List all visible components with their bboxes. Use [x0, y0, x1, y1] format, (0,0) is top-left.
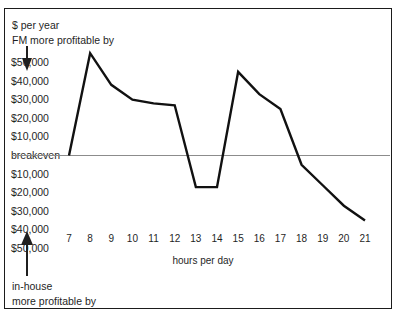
y-tick-label: $40,000: [11, 224, 49, 235]
top-annotation-line2: FM more profitable by: [12, 35, 114, 46]
y-tick-label: $50,000: [11, 57, 49, 68]
x-tick-label: 11: [148, 234, 158, 244]
y-tick-label: $30,000: [11, 94, 49, 105]
x-tick-label: 9: [109, 234, 115, 244]
chart-figure: $ per year FM more profitable by in-hous…: [0, 0, 406, 317]
y-tick-label: $30,000: [11, 206, 49, 217]
x-tick-label: 12: [169, 234, 180, 244]
y-tick-label: $10,000: [11, 131, 49, 142]
bottom-annotation: in-house more profitable by: [12, 281, 96, 310]
x-tick-label: 14: [211, 234, 222, 244]
x-tick-label: 21: [359, 234, 370, 244]
x-tick-label: 16: [254, 234, 265, 244]
y-tick-label: $20,000: [11, 187, 49, 198]
x-tick-label: 19: [317, 234, 328, 244]
top-annotation: $ per year FM more profitable by: [12, 20, 114, 49]
y-tick-label: $40,000: [11, 76, 49, 87]
x-tick-label: 8: [87, 234, 93, 244]
y-tick-label: $50,000: [11, 243, 49, 254]
x-tick-label: 13: [190, 234, 201, 244]
bottom-annotation-line1: in-house: [12, 281, 96, 292]
x-tick-label: 17: [275, 234, 286, 244]
bottom-annotation-line2: more profitable by: [12, 296, 96, 307]
y-tick-label: $20,000: [11, 113, 49, 124]
y-tick-label: $10,000: [11, 169, 49, 180]
x-tick-label: 10: [127, 234, 138, 244]
y-tick-label: breakeven: [11, 150, 60, 161]
x-tick-label: 20: [338, 234, 349, 244]
x-tick-label: 7: [66, 234, 72, 244]
x-axis-title: hours per day: [172, 256, 233, 266]
x-tick-label: 18: [296, 234, 307, 244]
top-annotation-line1: $ per year: [12, 20, 114, 31]
x-tick-label: 15: [233, 234, 244, 244]
